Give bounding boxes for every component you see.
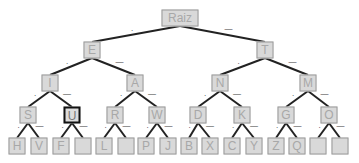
tree-edge [286,91,308,107]
node-k[interactable]: K [234,107,251,124]
dash-mark: — [225,25,233,33]
dash-mark: — [123,122,131,130]
tree-edge [92,26,180,42]
dash-mark: — [289,58,297,66]
dot-mark: . [292,90,294,98]
dash-mark: — [321,90,329,98]
tree-edge [220,58,265,75]
dot-mark: . [237,58,239,66]
node-w[interactable]: W [149,107,166,124]
dot-mark: . [131,25,133,33]
node-h[interactable]: H [9,138,26,155]
dot-mark: . [34,90,36,98]
dot-mark: . [120,90,122,98]
node-r[interactable]: R [107,107,124,124]
tree-edge [180,26,265,42]
node-f[interactable]: F [53,138,70,155]
node-g[interactable]: G [278,107,295,124]
node-empty[interactable] [118,138,135,155]
dash-mark: — [116,58,124,66]
tree-edge [198,91,220,107]
dash-mark: — [165,122,173,130]
node-c[interactable]: C [224,138,241,155]
dash-mark: — [337,122,345,130]
node-i[interactable]: I [42,75,59,92]
node-l[interactable]: L [96,138,113,155]
node-j[interactable]: J [160,138,177,155]
dash-mark: — [250,122,258,130]
node-s[interactable]: S [20,107,37,124]
node-z[interactable]: Z [268,138,285,155]
node-d[interactable]: D [190,107,207,124]
dash-mark: — [294,122,302,130]
node-empty[interactable] [310,138,327,155]
dot-mark: . [204,90,206,98]
tree-edge [115,91,135,107]
node-t[interactable]: T [257,42,274,59]
node-u[interactable]: U [64,107,81,124]
tree-edge [92,58,135,75]
dash-mark: — [148,90,156,98]
tree-edge [265,58,308,75]
node-v[interactable]: V [31,138,48,155]
node-empty[interactable] [332,138,349,155]
node-o[interactable]: O [321,107,338,124]
node-n[interactable]: N [212,75,229,92]
node-y[interactable]: Y [246,138,263,155]
tree-edge [28,91,50,107]
node-q[interactable]: Q [289,138,306,155]
node-a[interactable]: A [127,75,144,92]
node-e[interactable]: E [84,42,101,59]
node-m[interactable]: M [300,75,317,92]
dash-mark: — [206,122,214,130]
dash-mark: — [36,122,44,130]
dot-mark: . [66,58,68,66]
dash-mark: — [233,90,241,98]
node-empty[interactable] [75,138,92,155]
node-p[interactable]: P [138,138,155,155]
dash-mark: — [63,90,71,98]
node-b[interactable]: B [181,138,198,155]
node-x[interactable]: X [202,138,219,155]
root-node[interactable]: Raiz [162,10,199,27]
dash-mark: — [80,122,88,130]
tree-edge [50,58,92,75]
